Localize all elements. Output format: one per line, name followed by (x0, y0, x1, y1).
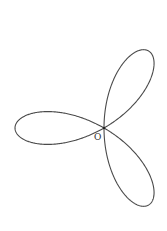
origin-point (103, 127, 105, 129)
three-leaf-rose-curve (15, 50, 154, 207)
rose-curve-figure (0, 0, 167, 231)
origin-label: O (94, 133, 101, 142)
